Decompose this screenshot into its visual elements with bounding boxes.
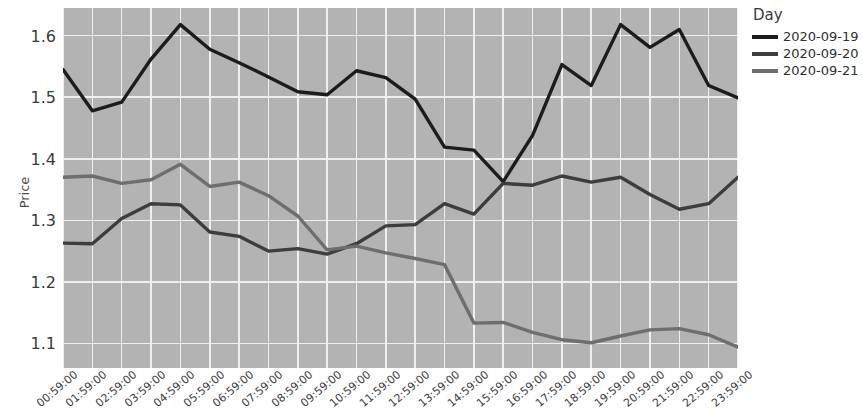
legend-swatch-icon bbox=[752, 69, 778, 73]
legend-item-2020-09-20[interactable]: 2020-09-20 bbox=[752, 45, 862, 62]
legend-item-2020-09-21[interactable]: 2020-09-21 bbox=[752, 62, 862, 79]
y-axis-tick-0: 1.1 bbox=[12, 334, 56, 353]
y-axis-tick-labels: 1.11.21.31.41.51.6 bbox=[6, 0, 56, 411]
legend-item-label: 2020-09-19 bbox=[783, 29, 859, 44]
legend-item-label: 2020-09-20 bbox=[783, 46, 859, 61]
plot-svg bbox=[63, 8, 738, 368]
y-axis-tick-5: 1.6 bbox=[12, 26, 56, 45]
y-axis-tick-2: 1.3 bbox=[12, 211, 56, 230]
y-axis-tick-3: 1.4 bbox=[12, 149, 56, 168]
legend-swatch-icon bbox=[752, 52, 778, 56]
y-axis-tick-4: 1.5 bbox=[12, 88, 56, 107]
plot-area bbox=[63, 8, 738, 368]
series-line-2020-09-21 bbox=[63, 164, 738, 347]
legend-item-label: 2020-09-21 bbox=[783, 63, 859, 78]
legend-swatch-icon bbox=[752, 35, 778, 39]
legend-item-2020-09-19[interactable]: 2020-09-19 bbox=[752, 28, 862, 45]
legend-title: Day bbox=[753, 6, 862, 24]
price-line-chart: Price 1.11.21.31.41.51.6 00:59:0001:59:0… bbox=[0, 0, 863, 411]
legend: Day 2020-09-192020-09-202020-09-21 bbox=[752, 6, 862, 79]
y-axis-tick-1: 1.2 bbox=[12, 272, 56, 291]
x-axis-tick-labels: 00:59:0001:59:0002:59:0003:59:0004:59:00… bbox=[63, 368, 738, 411]
series-line-2020-09-20 bbox=[63, 176, 738, 254]
legend-rows: 2020-09-192020-09-202020-09-21 bbox=[752, 28, 862, 79]
